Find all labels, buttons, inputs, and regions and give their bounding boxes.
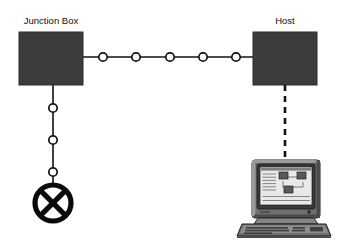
workstation-icon[interactable]	[237, 160, 331, 238]
monitor-case-highlight-left	[252, 161, 256, 217]
terminator-icon[interactable]	[35, 185, 71, 221]
network-diagram-canvas: Junction Box Host	[0, 0, 344, 252]
tap-node[interactable]	[49, 104, 57, 112]
monitor-case-highlight	[252, 160, 317, 163]
tap-node[interactable]	[49, 168, 57, 176]
screen-diagram-box	[279, 172, 288, 179]
monitor-stand	[254, 218, 318, 224]
screen-window-titlebar	[261, 168, 311, 171]
screen-diagram-box	[284, 186, 293, 193]
node-host[interactable]: Host	[253, 15, 317, 85]
junction-box-label: Junction Box	[24, 15, 79, 26]
screen-diagram-box	[297, 172, 306, 179]
tap-node[interactable]	[199, 53, 207, 61]
tap-node[interactable]	[132, 53, 140, 61]
tap-node[interactable]	[49, 136, 57, 144]
tap-node[interactable]	[99, 53, 107, 61]
junction-box-shape[interactable]	[19, 32, 83, 85]
tap-node[interactable]	[232, 53, 240, 61]
host-box-shape[interactable]	[253, 32, 317, 85]
monitor-control-slot[interactable]	[260, 211, 270, 213]
host-label: Host	[275, 15, 295, 26]
diagram-svg-root: Junction Box Host	[0, 0, 344, 252]
tap-node[interactable]	[166, 53, 174, 61]
node-junction-box[interactable]: Junction Box	[19, 15, 83, 85]
keyboard-base-shadow	[237, 236, 331, 238]
monitor-power-led[interactable]	[307, 210, 311, 214]
